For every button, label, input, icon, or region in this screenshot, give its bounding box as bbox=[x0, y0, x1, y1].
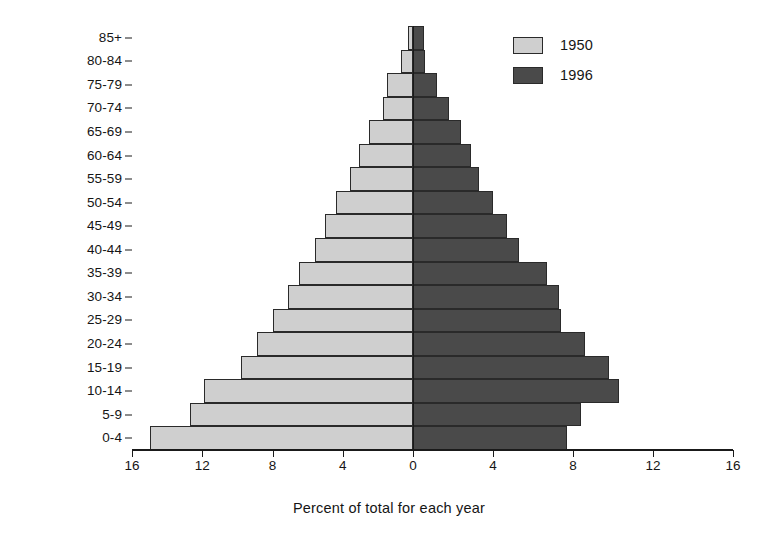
x-axis-line bbox=[132, 450, 733, 451]
bar-row bbox=[132, 238, 733, 262]
bar-1996-5-9 bbox=[413, 403, 581, 427]
y-axis-label-35-39: 35-39 bbox=[87, 267, 122, 281]
y-axis-tick bbox=[125, 344, 132, 345]
y-axis-tick bbox=[125, 132, 132, 133]
y-axis-label-30-34: 30-34 bbox=[87, 290, 122, 304]
legend-item-1996: 1996 bbox=[513, 60, 693, 90]
bar-1996-0-4 bbox=[413, 426, 567, 450]
bar-1950-30-34 bbox=[288, 285, 413, 309]
y-axis-label-55-59: 55-59 bbox=[87, 172, 122, 186]
legend-swatch-1996 bbox=[513, 67, 543, 84]
x-axis-tick-left-4-label: 4 bbox=[339, 459, 347, 473]
bar-row bbox=[132, 379, 733, 403]
bar-1950-60-64 bbox=[359, 144, 413, 168]
y-axis-tick bbox=[125, 391, 132, 392]
bar-1996-65-69 bbox=[413, 120, 461, 144]
y-axis-label-25-29: 25-29 bbox=[87, 314, 122, 328]
bar-1996-75-79 bbox=[413, 73, 437, 97]
bar-row bbox=[132, 426, 733, 450]
x-axis-tick-left-4 bbox=[343, 450, 344, 457]
x-axis-tick-right-8 bbox=[573, 450, 574, 457]
y-axis-label-15-19: 15-19 bbox=[87, 361, 122, 375]
y-axis-label-50-54: 50-54 bbox=[87, 196, 122, 210]
bar-1996-50-54 bbox=[413, 191, 493, 215]
y-axis-label-45-49: 45-49 bbox=[87, 219, 122, 233]
bar-1996-80-84 bbox=[413, 50, 425, 74]
x-axis-tick-right-4 bbox=[493, 450, 494, 457]
center-axis-line bbox=[413, 26, 414, 450]
y-axis-label-65-69: 65-69 bbox=[87, 125, 122, 139]
bar-row bbox=[132, 144, 733, 168]
y-axis-label-20-24: 20-24 bbox=[87, 337, 122, 351]
x-axis-tick-left-12 bbox=[202, 450, 203, 457]
bar-1996-30-34 bbox=[413, 285, 559, 309]
bar-1996-60-64 bbox=[413, 144, 471, 168]
y-axis-label-85+: 85+ bbox=[99, 31, 122, 45]
bar-row bbox=[132, 285, 733, 309]
y-axis-tick bbox=[125, 320, 132, 321]
x-axis-tick-left-12-label: 12 bbox=[195, 459, 210, 473]
y-axis-tick bbox=[125, 84, 132, 85]
y-axis-tick bbox=[125, 61, 132, 62]
bar-row bbox=[132, 262, 733, 286]
bar-row bbox=[132, 332, 733, 356]
bar-row bbox=[132, 403, 733, 427]
legend-swatch-1950 bbox=[513, 37, 543, 54]
chart-legend: 1950 1996 bbox=[513, 30, 693, 90]
y-axis-label-60-64: 60-64 bbox=[87, 149, 122, 163]
y-axis-label-5-9: 5-9 bbox=[102, 408, 122, 422]
y-axis-label-70-74: 70-74 bbox=[87, 102, 122, 116]
bar-1996-20-24 bbox=[413, 332, 585, 356]
bar-1950-50-54 bbox=[336, 191, 413, 215]
x-axis-tick-left-8-label: 8 bbox=[269, 459, 277, 473]
y-axis-tick bbox=[125, 155, 132, 156]
x-axis-tick-left-8 bbox=[273, 450, 274, 457]
bar-1996-40-44 bbox=[413, 238, 519, 262]
bar-1996-35-39 bbox=[413, 262, 547, 286]
x-axis-tick-left-0-label: 0 bbox=[409, 459, 417, 473]
y-axis-tick bbox=[125, 249, 132, 250]
bar-row bbox=[132, 214, 733, 238]
bar-1996-15-19 bbox=[413, 356, 609, 380]
bar-1950-20-24 bbox=[257, 332, 413, 356]
y-axis-tick bbox=[125, 273, 132, 274]
x-axis-title: Percent of total for each year bbox=[0, 500, 778, 516]
bar-row bbox=[132, 120, 733, 144]
bar-1996-55-59 bbox=[413, 167, 479, 191]
y-axis-tick bbox=[125, 37, 132, 38]
x-axis-tick-right-12-label: 12 bbox=[645, 459, 660, 473]
x-axis-tick-left-0 bbox=[413, 450, 414, 457]
bar-row bbox=[132, 167, 733, 191]
x-axis-tick-right-8-label: 8 bbox=[569, 459, 577, 473]
bar-1950-65-69 bbox=[369, 120, 413, 144]
y-axis-tick bbox=[125, 414, 132, 415]
bar-1950-45-49 bbox=[325, 214, 413, 238]
bar-1996-25-29 bbox=[413, 309, 561, 333]
bar-row bbox=[132, 356, 733, 380]
bar-1950-35-39 bbox=[299, 262, 413, 286]
bar-1996-85+ bbox=[413, 26, 424, 50]
bar-1950-40-44 bbox=[315, 238, 413, 262]
bar-1950-10-14 bbox=[204, 379, 413, 403]
x-axis-tick-right-12 bbox=[653, 450, 654, 457]
bar-1950-55-59 bbox=[350, 167, 413, 191]
bar-1950-75-79 bbox=[387, 73, 413, 97]
x-axis-tick-left-16-label: 16 bbox=[124, 459, 139, 473]
bar-1950-70-74 bbox=[383, 97, 413, 121]
y-axis-tick bbox=[125, 438, 132, 439]
bar-1950-80-84 bbox=[401, 50, 413, 74]
population-pyramid-figure: 0-45-910-1415-1920-2425-2930-3435-3940-4… bbox=[0, 0, 778, 549]
legend-label-1996: 1996 bbox=[560, 67, 593, 83]
bar-row bbox=[132, 191, 733, 215]
y-axis-tick bbox=[125, 296, 132, 297]
legend-label-1950: 1950 bbox=[560, 37, 593, 53]
bar-1996-70-74 bbox=[413, 97, 449, 121]
bar-1950-25-29 bbox=[273, 309, 414, 333]
y-axis-tick bbox=[125, 367, 132, 368]
y-axis-label-40-44: 40-44 bbox=[87, 243, 122, 257]
x-axis-tick-right-16-label: 16 bbox=[725, 459, 740, 473]
y-axis-age-labels: 0-45-910-1415-1920-2425-2930-3435-3940-4… bbox=[44, 26, 132, 450]
bar-1950-15-19 bbox=[241, 356, 413, 380]
bar-1950-0-4 bbox=[150, 426, 413, 450]
y-axis-tick bbox=[125, 179, 132, 180]
